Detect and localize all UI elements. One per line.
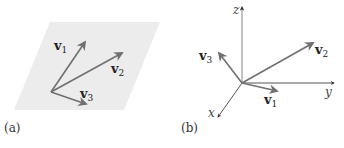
axis-label-z: z — [232, 3, 240, 17]
label-v1: v1 — [263, 92, 277, 109]
vector-v1-arrow — [242, 83, 277, 91]
panel-a: v1 v2 v3 (a) — [4, 22, 160, 135]
axis-label-y: y — [324, 85, 332, 99]
panel-b: z y x v1 v2 v3 (b) — [181, 3, 334, 135]
label-v2: v2 — [314, 42, 328, 59]
axis-label-x: x — [208, 106, 215, 120]
caption-a: (a) — [4, 121, 21, 135]
label-v3: v3 — [198, 48, 213, 65]
vector-v2-arrow — [242, 43, 313, 83]
caption-b: (b) — [181, 121, 198, 135]
x-axis — [218, 83, 242, 117]
vector-v3-arrow — [219, 53, 242, 83]
figure-canvas: v1 v2 v3 (a) z y x v1 v2 v3 (b) — [0, 0, 344, 148]
